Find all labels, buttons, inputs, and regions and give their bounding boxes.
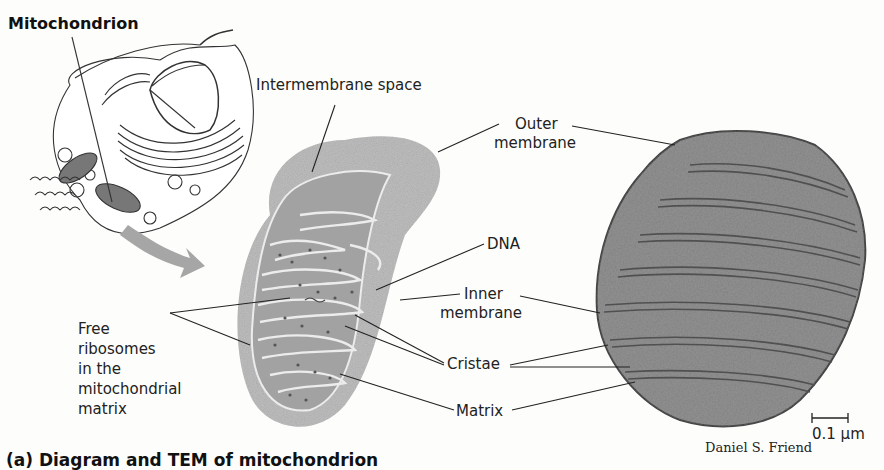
label-outer-membrane-line1: Outer xyxy=(515,115,558,133)
label-free-ribosomes-line3: in the xyxy=(78,360,121,378)
label-dna: DNA xyxy=(487,235,520,253)
label-free-ribosomes-line5: matrix xyxy=(78,400,127,418)
label-inner-membrane-line1: Inner xyxy=(464,285,503,303)
label-free-ribosomes-line1: Free xyxy=(78,320,110,338)
label-inner-membrane-line2: membrane xyxy=(440,304,522,322)
label-cristae: Cristae xyxy=(447,355,500,373)
photo-credit: Daniel S. Friend xyxy=(705,440,812,455)
label-intermembrane-space: Intermembrane space xyxy=(256,76,422,94)
zoom-arrow xyxy=(120,225,205,278)
cell-diagram xyxy=(30,30,253,234)
tem-micrograph xyxy=(597,131,866,426)
label-free-ribosomes-line4: mitochondrial xyxy=(78,380,182,398)
scale-bar xyxy=(812,413,848,423)
figure-caption: (a) Diagram and TEM of mitochondrion xyxy=(6,450,378,470)
scale-bar-label: 0.1 µm xyxy=(812,425,865,443)
figure-title: Mitochondrion xyxy=(8,14,139,33)
label-outer-membrane-line2: membrane xyxy=(494,134,576,152)
mitochondrion-diagram xyxy=(237,136,440,427)
label-free-ribosomes-line2: ribosomes xyxy=(78,340,156,358)
label-matrix: Matrix xyxy=(456,402,503,420)
